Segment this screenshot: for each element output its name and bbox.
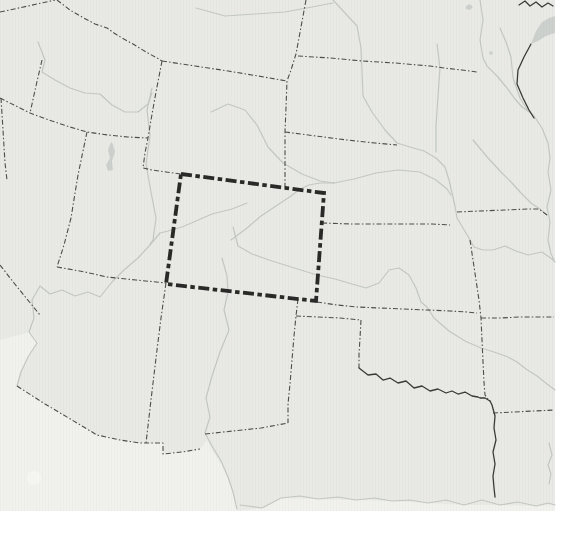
us-states-reference-map[interactable] <box>0 0 563 538</box>
map-screenshot <box>0 0 563 538</box>
map-svg[interactable] <box>0 0 563 538</box>
mexico-faint-spot <box>27 471 41 485</box>
